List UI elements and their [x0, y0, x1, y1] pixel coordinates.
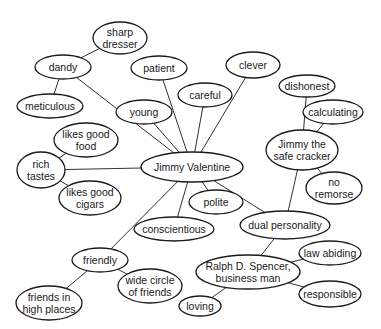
node-likes-good-food: likes goodfood — [54, 123, 118, 157]
node-sharp-dresser: sharpdresser — [93, 22, 147, 54]
node-likes-good-cigars: likes goodcigars — [59, 181, 121, 215]
node-label: sharp — [107, 26, 133, 38]
node-label: wide circle — [124, 274, 174, 286]
node-label: of friends — [128, 286, 171, 298]
node-conscientious: conscientious — [134, 217, 214, 241]
node-wide-circle-of-friends: wide circleof friends — [118, 269, 182, 303]
node-ralph-d-spencer: Ralph D. Spencer,business man — [196, 255, 300, 289]
node-meticulous: meticulous — [17, 94, 83, 118]
node-jimmy-the-safe-cracker: Jimmy thesafe cracker — [266, 130, 338, 170]
nodes-layer: Jimmy Valentinedandysharpdressermeticulo… — [16, 22, 363, 320]
node-dual-personality: dual personality — [240, 211, 330, 239]
node-no-remorse: noremorse — [306, 172, 362, 204]
node-label: careful — [189, 89, 221, 101]
node-label: likes good — [66, 186, 113, 198]
node-label: likes good — [62, 128, 109, 140]
node-label: Jimmy Valentine — [154, 161, 230, 173]
node-friends-in-high-places: friends inhigh places — [16, 286, 82, 320]
node-loving: loving — [179, 296, 221, 316]
node-label: responsible — [303, 288, 357, 300]
node-clever: clever — [226, 52, 280, 78]
node-label: dandy — [49, 61, 78, 73]
node-label: rich — [33, 158, 50, 170]
node-label: law abiding — [304, 247, 357, 259]
node-label: clever — [239, 59, 268, 71]
node-label: friends in — [28, 291, 71, 303]
node-responsible: responsible — [299, 281, 361, 307]
node-polite: polite — [189, 190, 243, 214]
node-label: loving — [186, 300, 214, 312]
node-label: business man — [216, 272, 281, 284]
node-label: dual personality — [248, 219, 322, 231]
node-label: meticulous — [25, 100, 75, 112]
node-label: dresser — [102, 38, 138, 50]
node-rich-tastes: richtastes — [17, 152, 65, 188]
node-label: Ralph D. Spencer, — [205, 260, 290, 272]
node-label: patient — [143, 62, 175, 74]
node-label: food — [76, 140, 97, 152]
node-label: remorse — [315, 188, 354, 200]
node-label: friendly — [83, 254, 118, 266]
node-label: no — [328, 176, 340, 188]
node-label: young — [130, 106, 159, 118]
node-label: conscientious — [142, 223, 206, 235]
node-label: high places — [22, 303, 75, 315]
node-label: dishonest — [285, 80, 330, 92]
node-patient: patient — [131, 56, 187, 80]
node-young: young — [116, 100, 172, 124]
node-label: polite — [203, 196, 228, 208]
node-label: cigars — [76, 198, 104, 210]
node-label: calculating — [308, 106, 358, 118]
node-dishonest: dishonest — [279, 75, 335, 97]
node-label: tastes — [27, 170, 55, 182]
node-law-abiding: law abiding — [299, 241, 361, 265]
character-map-diagram: Jimmy Valentinedandysharpdressermeticulo… — [0, 0, 381, 329]
node-label: Jimmy the — [278, 138, 326, 150]
node-calculating: calculating — [303, 100, 363, 124]
node-jimmy-valentine: Jimmy Valentine — [141, 152, 243, 182]
node-careful: careful — [178, 83, 232, 107]
node-label: safe cracker — [273, 150, 331, 162]
node-friendly: friendly — [72, 248, 128, 272]
node-dandy: dandy — [35, 55, 91, 79]
